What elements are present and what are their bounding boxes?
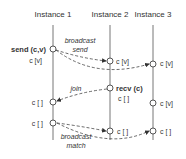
- event-send-circle: [50, 46, 56, 52]
- sequence-diagram: Instance 1 Instance 2 Instance 3 send (c…: [0, 0, 186, 159]
- i1-join-label: c [ ]: [32, 99, 43, 107]
- event-i1-join-circle: [50, 99, 56, 105]
- event-i3-match-circle: [150, 128, 156, 134]
- event-i2-match-circle: [107, 128, 113, 134]
- event-recv-circle: [107, 85, 113, 91]
- i2-empty-label: c [ ]: [118, 95, 129, 103]
- event-i3-cv-later-circle: [150, 100, 156, 106]
- broadcast-match-arrow-to-2: [57, 123, 106, 131]
- broadcast-match-label-1: broadcast: [61, 133, 93, 140]
- recv-label: recv (c): [116, 84, 143, 93]
- i2-match-label: c [ ]: [117, 128, 128, 136]
- i1-match-label: c [ ]: [32, 120, 43, 128]
- broadcast-send-label-1: broadcast: [65, 37, 97, 44]
- event-i1-match-circle: [50, 120, 56, 126]
- i3-cv-later-label: c [v]: [160, 100, 173, 108]
- event-i2-cv-circle: [107, 58, 113, 64]
- send-label: send (c,v): [11, 45, 47, 54]
- join-label: join: [70, 85, 82, 93]
- i1-cv-label: c [v]: [29, 57, 42, 65]
- broadcast-match-label-2: match: [66, 142, 85, 149]
- instance-2-title: Instance 2: [92, 10, 129, 19]
- broadcast-send-arrow-to-3: [56, 50, 149, 70]
- broadcast-send-label-2: send: [72, 46, 88, 53]
- event-i3-cv-circle: [150, 61, 156, 67]
- i3-cv-label: c [v]: [160, 60, 173, 68]
- instance-1-title: Instance 1: [35, 10, 72, 19]
- instance-3-title: Instance 3: [135, 10, 172, 19]
- join-arrow: [57, 89, 107, 101]
- i2-cv-label: c [v]: [116, 58, 129, 66]
- i3-match-label: c [ ]: [160, 128, 171, 136]
